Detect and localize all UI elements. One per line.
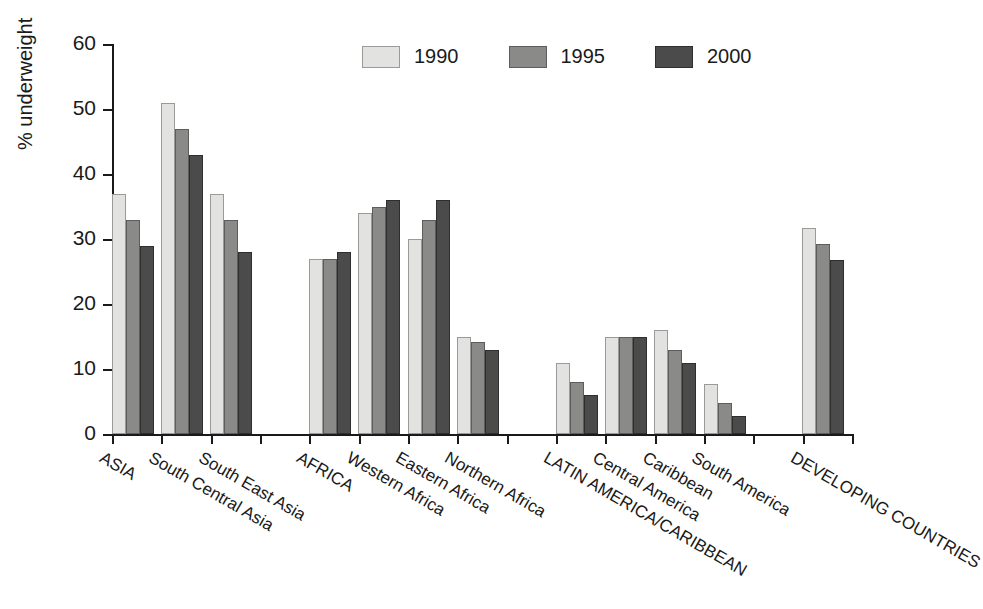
bar xyxy=(718,403,732,434)
x-axis-tick xyxy=(112,434,114,444)
bar xyxy=(668,350,682,435)
x-axis-tick xyxy=(655,434,657,444)
bar xyxy=(570,382,584,434)
bar xyxy=(408,239,422,434)
bar xyxy=(619,337,633,435)
y-axis-tick: 60 xyxy=(103,44,112,46)
plot-area: 0102030405060 xyxy=(112,44,852,434)
x-axis-tick xyxy=(605,434,607,444)
bar xyxy=(309,259,323,435)
x-axis-tick xyxy=(753,434,755,444)
bar xyxy=(457,337,471,435)
bar xyxy=(556,363,570,435)
bar xyxy=(485,350,499,435)
x-axis-tick xyxy=(852,434,854,444)
x-axis-tick xyxy=(359,434,361,444)
bar xyxy=(224,220,238,435)
bar xyxy=(337,252,351,434)
x-axis-tick xyxy=(161,434,163,444)
y-axis-tick-label: 10 xyxy=(73,357,96,379)
y-axis-tick: 30 xyxy=(103,239,112,241)
x-axis-tick xyxy=(260,434,262,444)
bar xyxy=(372,207,386,435)
y-axis-tick: 10 xyxy=(103,369,112,371)
bar xyxy=(238,252,252,434)
y-axis-tick-label: 60 xyxy=(73,32,96,54)
y-axis-tick: 50 xyxy=(103,109,112,111)
bar xyxy=(802,228,816,434)
x-axis-tick xyxy=(309,434,311,444)
bar xyxy=(633,337,647,435)
bar xyxy=(189,155,203,435)
bar xyxy=(323,259,337,435)
y-axis-tick-label: 50 xyxy=(73,97,96,119)
bar xyxy=(112,194,126,435)
bar xyxy=(210,194,224,435)
x-axis-line xyxy=(112,434,852,436)
x-axis-tick xyxy=(408,434,410,444)
bar xyxy=(654,330,668,434)
x-axis-tick xyxy=(803,434,805,444)
x-axis-tick xyxy=(457,434,459,444)
bar xyxy=(605,337,619,435)
bar xyxy=(584,395,598,434)
bar xyxy=(816,244,830,434)
x-axis-tick xyxy=(507,434,509,444)
x-axis-tick xyxy=(211,434,213,444)
y-axis-tick-label: 40 xyxy=(73,162,96,184)
bar xyxy=(422,220,436,435)
y-axis-tick: 20 xyxy=(103,304,112,306)
bar xyxy=(386,200,400,434)
y-axis-tick-label: 30 xyxy=(73,227,96,249)
bar xyxy=(140,246,154,435)
bar xyxy=(830,260,844,434)
x-axis-label: ASIA xyxy=(96,448,140,485)
bar xyxy=(161,103,175,435)
bar xyxy=(436,200,450,434)
bar xyxy=(704,384,718,434)
bar xyxy=(471,342,485,434)
y-axis-tick-label: 20 xyxy=(73,292,96,314)
y-axis-tick: 0 xyxy=(103,434,112,436)
x-axis-tick xyxy=(704,434,706,444)
bar xyxy=(126,220,140,435)
bar xyxy=(732,416,746,434)
y-axis-tick-label: 0 xyxy=(84,422,96,444)
bar xyxy=(682,363,696,435)
bar xyxy=(175,129,189,435)
y-axis-tick: 40 xyxy=(103,174,112,176)
x-axis-tick xyxy=(556,434,558,444)
bar xyxy=(358,213,372,434)
x-axis-label: DEVELOPING COUNTRIES xyxy=(787,448,983,573)
y-axis-title: % underweight xyxy=(14,18,37,150)
